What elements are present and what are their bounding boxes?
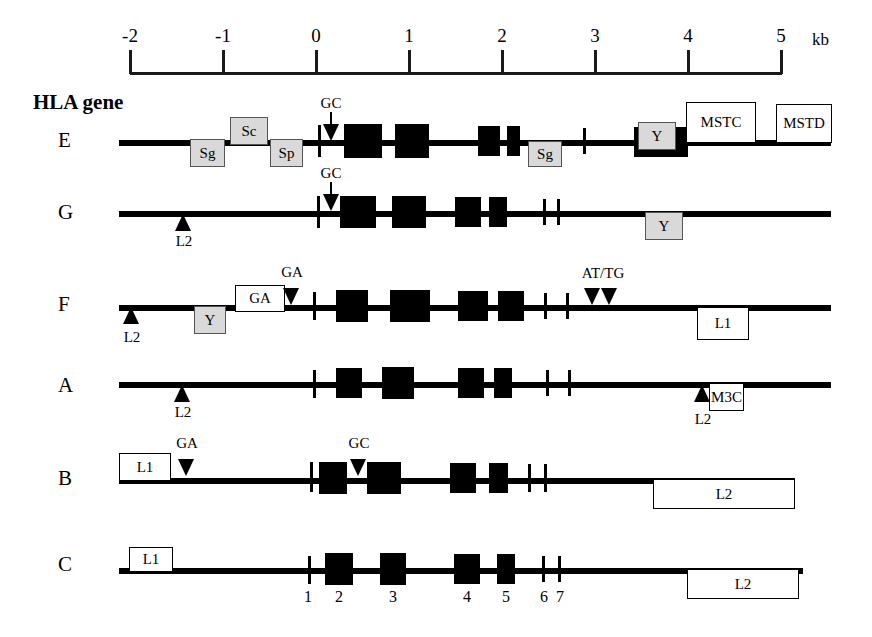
marker-label-A-L2b: L2 <box>683 412 723 427</box>
exon-C-7 <box>558 556 561 582</box>
scale-label-4: 4 <box>668 26 708 45</box>
gene-row-label-A: A <box>58 373 73 398</box>
marker-label-G-GC: GC <box>311 166 351 181</box>
marker-label-F-L2: L2 <box>112 330 152 345</box>
marker-triangle-B-GA[interactable] <box>178 459 194 476</box>
marker-label-F-GA: GA <box>272 265 312 280</box>
marker-triangle-B-GC[interactable] <box>350 459 366 476</box>
feature-box-B-L1[interactable]: L1 <box>119 453 171 481</box>
scale-tick-3 <box>594 50 597 74</box>
exon-C-6 <box>542 556 545 582</box>
scale-label-2: 2 <box>482 26 522 45</box>
exon-C-4 <box>454 554 480 584</box>
marker-label-E-GC: GC <box>311 96 351 111</box>
exon-number-4: 4 <box>449 589 485 605</box>
exon-G-7 <box>557 199 560 225</box>
scale-label-5: 5 <box>761 26 801 45</box>
exon-A-7 <box>568 370 571 396</box>
exon-number-3: 3 <box>375 589 411 605</box>
exon-F-1 <box>313 292 316 320</box>
feature-box-B-L2[interactable]: L2 <box>653 479 795 509</box>
exon-B-2 <box>319 462 347 494</box>
exon-G-4 <box>455 197 481 227</box>
exon-A-6 <box>546 370 549 396</box>
feature-box-G-Y[interactable]: Y <box>645 212 683 240</box>
exon-F-4 <box>458 291 488 321</box>
marker-label-B-GC: GC <box>339 436 379 451</box>
exon-B-1 <box>310 462 313 492</box>
exon-G-3 <box>392 196 426 228</box>
exon-E-4 <box>478 126 500 156</box>
exon-F-5 <box>498 291 524 321</box>
gene-row-label-E: E <box>58 128 71 153</box>
exon-E-3 <box>395 124 429 158</box>
scale-tick-4 <box>687 50 690 74</box>
marker-triangle-A-L2b[interactable] <box>694 385 710 402</box>
scale-tick-1 <box>408 50 411 74</box>
scale-label-1: 1 <box>389 26 429 45</box>
feature-box-A-M3C[interactable]: M3C <box>709 383 744 411</box>
marker-label-A-L2a: L2 <box>163 405 203 420</box>
gc-arrow-head-E <box>323 124 339 141</box>
marker-label-F-ATTG: AT/TG <box>573 266 633 281</box>
feature-box-E-Sp[interactable]: Sp <box>270 139 303 167</box>
exon-E-5 <box>507 126 520 156</box>
exon-G-2 <box>340 196 376 228</box>
marker-label-B-GA: GA <box>167 436 207 451</box>
exon-F-2 <box>336 290 368 322</box>
scale-tick-2 <box>501 50 504 74</box>
exon-B-6 <box>528 464 531 492</box>
feature-box-E-Y[interactable]: Y <box>638 122 676 150</box>
marker-triangle-F-TG[interactable] <box>601 288 617 305</box>
exon-number-7: 7 <box>542 589 578 605</box>
feature-box-F-L1[interactable]: L1 <box>697 307 749 340</box>
marker-triangle-G-L2[interactable] <box>175 214 191 231</box>
gene-row-label-G: G <box>58 200 73 225</box>
exon-G-6 <box>543 199 546 225</box>
feature-box-E-Sc[interactable]: Sc <box>230 117 268 145</box>
scale-label-minus2: -2 <box>110 26 150 45</box>
marker-triangle-F-GA[interactable] <box>283 288 299 305</box>
feature-box-C-L2[interactable]: L2 <box>687 569 799 599</box>
scale-tick-minus2 <box>129 50 132 74</box>
gc-arrow-head-G <box>323 194 339 211</box>
exon-A-1 <box>313 370 316 398</box>
marker-label-G-L2: L2 <box>164 234 204 249</box>
scale-label-3: 3 <box>575 26 615 45</box>
hla-gene-diagram: -2 -1 0 1 2 3 4 5 kb HLA gene E Sg Sc Sp… <box>0 0 872 637</box>
exon-G-5 <box>489 197 507 227</box>
marker-triangle-A-L2a[interactable] <box>174 385 190 402</box>
feature-box-E-MSTC[interactable]: MSTC <box>686 102 756 143</box>
feature-box-F-Y[interactable]: Y <box>194 306 226 334</box>
scale-label-0: 0 <box>296 26 336 45</box>
feature-box-E-Sg2[interactable]: Sg <box>528 141 562 167</box>
exon-A-5 <box>494 368 512 398</box>
exon-F-7 <box>566 293 569 319</box>
marker-triangle-F-AT[interactable] <box>584 288 600 305</box>
scale-label-minus1: -1 <box>203 26 243 45</box>
scale-tick-5 <box>780 50 783 74</box>
scale-tick-minus1 <box>222 50 225 74</box>
feature-box-E-Sg1[interactable]: Sg <box>190 139 225 167</box>
gene-row-label-F: F <box>58 292 70 317</box>
exon-A-3 <box>382 367 414 399</box>
exon-C-2 <box>325 553 353 585</box>
exon-B-4 <box>450 463 476 493</box>
gc-tick-G <box>317 196 320 228</box>
scale-axis-line <box>130 72 782 75</box>
feature-box-F-GA[interactable]: GA <box>235 285 285 312</box>
exon-A-4 <box>458 368 484 398</box>
exon-C-1 <box>308 556 311 584</box>
exon-F-3 <box>390 290 430 322</box>
exon-number-5: 5 <box>488 589 524 605</box>
exon-B-3 <box>367 462 401 494</box>
scale-unit-label: kb <box>812 30 829 50</box>
exon-B-7 <box>544 464 547 492</box>
gene-row-label-C: C <box>58 552 72 577</box>
feature-box-E-MSTD[interactable]: MSTD <box>776 104 832 143</box>
feature-box-C-L1[interactable]: L1 <box>129 547 173 572</box>
gene-row-label-B: B <box>58 466 72 491</box>
marker-triangle-F-L2[interactable] <box>123 307 139 324</box>
exon-A-2 <box>336 368 362 398</box>
exon-E-2 <box>344 124 382 158</box>
